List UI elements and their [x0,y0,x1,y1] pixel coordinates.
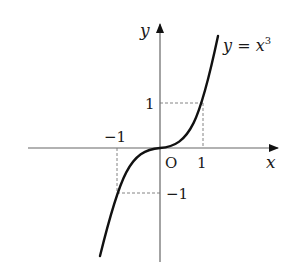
curve-equation-label: y = x3 [222,35,271,55]
tick-label-x-neg1: −1 [104,128,126,146]
x-axis-label: x [266,152,276,172]
cubic-graph: y x O 1 −1 1 −1 y = x3 [0,0,294,265]
tick-label-x-1: 1 [197,154,207,172]
tick-label-y-1: 1 [145,95,155,113]
eq-equals: = [232,36,256,55]
eq-exponent: 3 [265,35,271,46]
cubic-curve [100,36,218,256]
origin-label: O [165,154,177,172]
tick-label-y-neg1: −1 [166,185,188,203]
eq-x: x [256,36,265,55]
y-axis-label: y [139,20,150,40]
